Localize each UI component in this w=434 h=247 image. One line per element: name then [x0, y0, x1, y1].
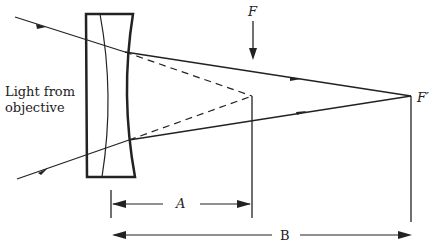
- upper-refracted-ray: [125, 52, 411, 96]
- focus-f-label: F: [247, 4, 258, 19]
- virtual-ray-extensions: [125, 52, 252, 140]
- dimension-a-label: A: [175, 196, 185, 211]
- light-from-label: Light from: [5, 84, 75, 99]
- objective-label: objective: [5, 100, 65, 115]
- optics-diagram: Light from objective F F′ A B: [0, 0, 434, 247]
- lower-refracted-ray: [129, 96, 411, 140]
- lower-incoming-ray: [17, 140, 129, 179]
- dimension-b-label: B: [280, 228, 290, 243]
- focus-f-prime-label: F′: [416, 90, 429, 105]
- focus-f-arrow: [249, 21, 257, 60]
- upper-incoming-ray: [15, 17, 125, 52]
- dimension-b: [112, 231, 412, 239]
